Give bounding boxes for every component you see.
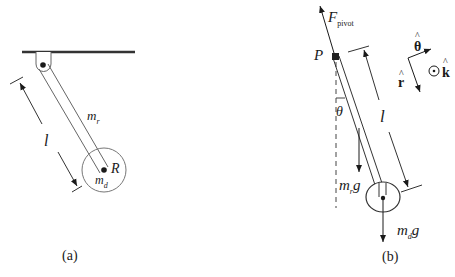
label-disc-weight: mdg — [397, 222, 420, 241]
label-length-b: l — [380, 107, 385, 126]
caption-b: (b) — [382, 249, 399, 265]
theta-hat-caret: ^ — [415, 30, 420, 41]
label-theta-hat: θ — [414, 39, 421, 54]
disc-center-dot — [101, 167, 107, 173]
r-hat-caret: ^ — [399, 68, 404, 79]
label-pivot-force: Fpivot — [327, 9, 354, 28]
pivot-dot — [40, 62, 46, 68]
pivot-bracket — [36, 52, 51, 72]
rod-b — [333, 56, 386, 197]
pivot-point-b — [332, 53, 339, 60]
panel-b: Fpivot P θ mrg mdg l θ ^ r ^ — [313, 6, 450, 265]
panel-a: l mr R md (a) — [10, 52, 135, 264]
k-hat-caret: ^ — [443, 56, 448, 67]
diagram-canvas: l mr R md (a) Fpivot P θ — [0, 0, 455, 277]
label-rod-weight: mrg — [339, 177, 361, 196]
unit-vector-triad — [408, 49, 431, 92]
label-disc-mass: md — [95, 173, 109, 190]
label-angle-theta: θ — [336, 104, 343, 119]
label-pivot-p: P — [313, 47, 323, 63]
label-rod-mass: mr — [87, 108, 100, 126]
label-k-hat: k — [442, 65, 450, 80]
label-length-a: l — [44, 132, 49, 149]
label-disc-radius: R — [110, 161, 120, 176]
caption-a: (a) — [62, 248, 78, 264]
